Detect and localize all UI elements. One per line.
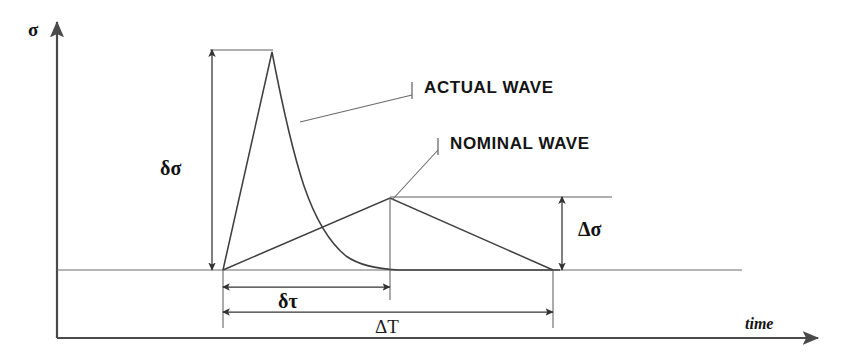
axis-group xyxy=(57,22,818,338)
stress-time-figure: σ time ACTUAL WAVE NOMINAL WAVE δσ Δσ δτ… xyxy=(0,0,846,364)
delta-tau-label: δτ xyxy=(278,291,298,311)
nominal-wave-curve xyxy=(223,198,553,270)
delta-t-label: ΔT xyxy=(375,317,399,336)
figure-canvas xyxy=(0,0,846,364)
nominal-wave-leader xyxy=(392,138,438,200)
nominal-wave-label: NOMINAL WAVE xyxy=(450,135,590,152)
delta-sigma-peak-label: δσ xyxy=(160,158,181,178)
delta-sigma-nominal-label: Δσ xyxy=(578,219,601,239)
x-axis-label: time xyxy=(745,316,773,332)
actual-wave-label: ACTUAL WAVE xyxy=(424,79,554,96)
y-axis-label: σ xyxy=(28,20,38,39)
actual-wave-leader xyxy=(300,82,412,122)
